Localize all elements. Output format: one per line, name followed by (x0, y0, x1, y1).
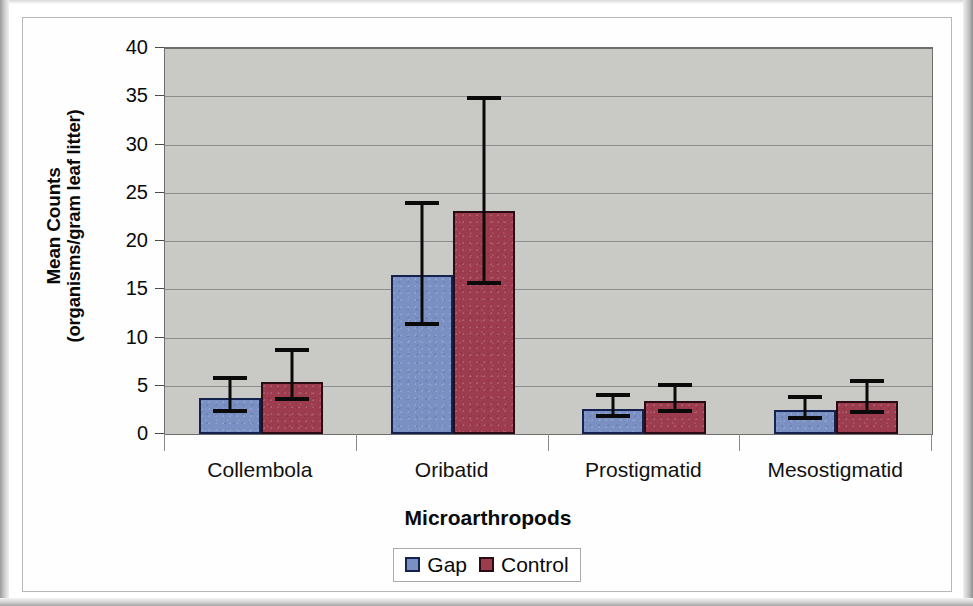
y-axis-tick-mark (155, 95, 164, 96)
error-bar-cap-upper (405, 201, 439, 205)
error-bar-cap-upper (275, 348, 309, 352)
x-axis-tick-mark (548, 434, 549, 451)
y-axis-tick-mark (155, 288, 164, 289)
plot-area (164, 47, 933, 435)
x-axis-tick-mark (164, 434, 165, 451)
error-bar-cap-lower (850, 410, 884, 414)
chart-legend: GapControl (393, 548, 580, 582)
error-bar-stem (482, 96, 485, 285)
gridline (165, 241, 932, 242)
gridline (165, 289, 932, 290)
x-axis-label-oribatid: Oribatid (356, 459, 548, 480)
error-bar-mesostigmatid-control (836, 379, 898, 414)
legend-swatch-gap (405, 557, 420, 572)
error-bar-cap-upper (213, 376, 247, 380)
gridline (165, 48, 932, 49)
y-axis-tick-label: 30 (104, 134, 148, 154)
x-axis-label-prostigmatid: Prostigmatid (548, 459, 740, 480)
error-bar-prostigmatid-gap (582, 393, 644, 417)
error-bar-cap-lower (596, 414, 630, 418)
gridline (165, 193, 932, 194)
error-bar-stem (290, 348, 293, 401)
x-axis-tick-mark (356, 434, 357, 451)
error-bar-stem (420, 201, 423, 325)
y-axis-tick-mark (155, 337, 164, 338)
legend-entry-control: Control (479, 554, 569, 575)
y-axis-tick-mark (155, 240, 164, 241)
error-bar-stem (228, 376, 231, 413)
scan-edge-bottom (0, 598, 973, 606)
y-axis-tick-mark (155, 47, 164, 48)
error-bar-cap-lower (467, 281, 501, 285)
scan-edge-top (0, 0, 973, 4)
y-axis-tick-label: 5 (104, 375, 148, 395)
error-bar-cap-lower (658, 409, 692, 413)
scan-edge-left (0, 0, 9, 606)
y-axis-title-line2: (organisms/gram leaf litter) (64, 110, 85, 343)
error-bar-oribatid-control (453, 96, 515, 285)
y-axis-tick-label: 0 (104, 423, 148, 443)
x-axis-label-mesostigmatid: Mesostigmatid (739, 459, 931, 480)
y-axis-tick-label: 15 (104, 278, 148, 298)
y-axis-tick-mark (155, 385, 164, 386)
error-bar-cap-upper (658, 383, 692, 387)
y-axis-tick-mark (155, 433, 164, 434)
scan-edge-right (963, 0, 973, 606)
legend-label-gap: Gap (427, 554, 467, 575)
error-bar-prostigmatid-control (644, 383, 706, 413)
gridline (165, 145, 932, 146)
error-bar-collembola-gap (199, 376, 261, 413)
x-axis-label-collembola: Collembola (164, 459, 356, 480)
error-bar-cap-lower (213, 409, 247, 413)
x-axis-title: Microarthropods (23, 506, 953, 530)
error-bar-cap-upper (467, 96, 501, 100)
error-bar-collembola-control (261, 348, 323, 401)
error-bar-cap-lower (405, 322, 439, 326)
error-bar-cap-lower (275, 397, 309, 401)
error-bar-oribatid-gap (391, 201, 453, 325)
x-axis-tick-mark (739, 434, 740, 451)
gridline (165, 338, 932, 339)
x-axis-tick-mark (931, 434, 932, 451)
y-axis-tick-label: 40 (104, 37, 148, 57)
y-axis-tick-label: 20 (104, 230, 148, 250)
error-bar-cap-upper (788, 395, 822, 399)
error-bar-mesostigmatid-gap (774, 395, 836, 419)
y-axis-tick-label: 10 (104, 327, 148, 347)
legend-entry-gap: Gap (405, 554, 467, 575)
error-bar-stem (866, 379, 869, 414)
legend-swatch-control (479, 557, 494, 572)
y-axis-tick-label: 25 (104, 182, 148, 202)
error-bar-cap-upper (850, 379, 884, 383)
error-bar-cap-upper (596, 393, 630, 397)
y-axis-title-line1: Mean Counts (43, 167, 64, 284)
y-axis-tick-mark (155, 192, 164, 193)
y-axis-title: Mean Counts (organisms/gram leaf litter) (34, 61, 94, 391)
y-axis-tick-label: 35 (104, 85, 148, 105)
y-axis-tick-mark (155, 144, 164, 145)
chart-frame: Mean Counts (organisms/gram leaf litter)… (22, 17, 952, 592)
legend-label-control: Control (501, 554, 569, 575)
error-bar-cap-lower (788, 416, 822, 420)
gridline (165, 96, 932, 97)
